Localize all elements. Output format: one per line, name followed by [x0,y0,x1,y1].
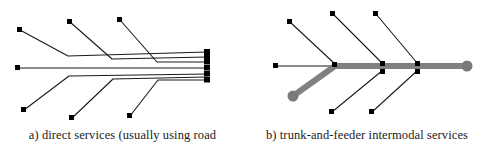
node-destination-6 [204,77,210,83]
node-center-left-origin [15,65,20,70]
panel-direct-services: a) direct services (usually using road [0,0,245,151]
caption-panel-a: a) direct services (usually using road [0,128,245,143]
feeder-node-upper-2 [330,11,335,16]
junction-node-3-lower [415,69,420,74]
node-upper-left-origin [17,27,22,32]
node-lower-right-origin [127,113,132,118]
junction-node-2 [380,61,385,66]
diagram-direct-services [0,0,245,128]
feeder-upper-2 [333,14,383,64]
feeder-upper-3 [376,14,418,64]
direct-route-lines [18,20,207,118]
route-lower-right [130,80,207,116]
feeder-node-lower-2 [369,109,374,114]
node-upper-mid-origin [67,19,72,24]
route-lower-mid [72,77,207,118]
node-destination-1 [204,49,210,55]
caption-panel-b: b) trunk-and-feeder intermodal services [245,128,489,143]
junction-node-2-lower [380,69,385,74]
figure-network-service-types: a) direct services (usually using road [0,0,489,151]
feeder-upper-1 [290,22,335,64]
node-destination-3 [204,59,210,65]
feeder-node-lower-1 [329,109,334,114]
trunk-terminal-left [288,91,299,102]
node-lower-mid-origin [69,115,74,120]
junction-node-3 [415,61,420,66]
trunk-terminal-right [462,61,473,72]
route-upper-right [120,20,207,62]
route-upper-left [20,30,207,56]
feeder-lower-2 [372,70,418,112]
feeder-node-upper-3 [373,11,378,16]
panel-trunk-and-feeder: b) trunk-and-feeder intermodal services [245,0,489,151]
node-destination-5 [204,71,210,77]
feeder-lower-1 [332,70,383,112]
node-destination-2 [204,54,210,60]
node-destination-4 [204,65,210,71]
node-lower-left-origin [21,107,26,112]
node-upper-right-origin [117,17,122,22]
feeder-node-west [273,63,278,68]
diagram-trunk-and-feeder [245,0,489,128]
direct-destination-nodes [204,49,210,83]
junction-node-1 [332,62,337,67]
feeder-node-upper-1 [287,19,292,24]
